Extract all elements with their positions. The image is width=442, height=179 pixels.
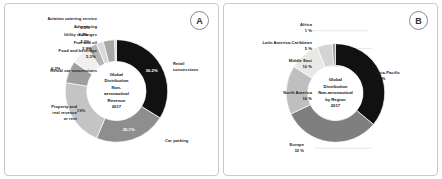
label-fuel-and-oil: Fuel and oil	[11, 40, 97, 46]
panel-a: A 30.2%20.1%19%6.2%5.3%2.8%2.0%3.2%0.5% …	[4, 3, 219, 176]
center-line-4: by Region	[325, 97, 346, 102]
center-line-2: Distribution	[324, 84, 348, 89]
center-line-5: Revenue	[108, 98, 126, 103]
label-rental-car-concessions: Rental car concessions	[9, 68, 97, 74]
label-africa-value: 1 %	[234, 28, 312, 34]
label-asia-pacific: Asia-Pacific 36 %	[376, 70, 438, 82]
label-retail-concessions: Retail concessions	[173, 61, 221, 73]
center-line-4: aeronautical	[104, 91, 129, 96]
label-retail-line2: concessions	[173, 67, 221, 73]
figure-container: A 30.2%20.1%19%6.2%5.3%2.8%2.0%3.2%0.5% …	[0, 0, 442, 179]
label-middle-east: Middle East 10 %	[234, 58, 312, 70]
label-food-and-beverage: Food and beverage	[11, 48, 97, 54]
label-middle-east-value: 10 %	[234, 64, 312, 70]
label-property-line3: or rent	[11, 116, 77, 122]
center-line-1: Global	[110, 72, 123, 77]
panel-b: B GlobalDistributionNon-aeronauticalby R…	[223, 3, 438, 176]
label-advertising: Advertising	[11, 24, 97, 30]
value-label-car-parking: 20.1%	[123, 127, 135, 132]
label-north-america: North America 16 %	[230, 90, 312, 102]
label-africa: Africa 1 %	[234, 22, 312, 34]
value-label-property-and-real-revenue-or-rent: 19%	[77, 108, 86, 113]
center-line-1: Global	[329, 77, 342, 82]
label-asia-pacific-value: 36 %	[376, 76, 438, 82]
label-latin-america-caribbean: Latin America-Caribbean 5 %	[226, 40, 312, 52]
center-line-6: 2017	[112, 104, 122, 109]
center-line-3: Non-	[112, 85, 122, 90]
label-car-parking: Car parking	[165, 138, 219, 144]
slice-car-parking	[97, 107, 160, 143]
label-north-america-value: 16 %	[230, 96, 312, 102]
label-europe-value: 32 %	[242, 148, 304, 154]
value-label-food-and-beverage: 5.3%	[86, 54, 96, 59]
label-aviation-catering: Aviation catering service	[11, 16, 97, 22]
label-property-real-revenue: Property and real revenue or rent	[11, 104, 77, 122]
label-europe: Europe 32 %	[242, 142, 304, 154]
center-line-5: 2017	[331, 103, 341, 108]
donut-a-center-text: GlobalDistributionNon-aeronauticalRevenu…	[104, 72, 129, 110]
center-line-3: Non-aeronautical	[318, 90, 353, 95]
center-line-2: Distribution	[105, 78, 129, 83]
donut-b-center-text: GlobalDistributionNon-aeronauticalby Reg…	[318, 77, 353, 108]
label-utility-recharges: Utility recharges	[11, 32, 97, 38]
label-latam-value: 5 %	[226, 46, 312, 52]
value-label-retail-concessions: 30.2%	[146, 68, 158, 73]
